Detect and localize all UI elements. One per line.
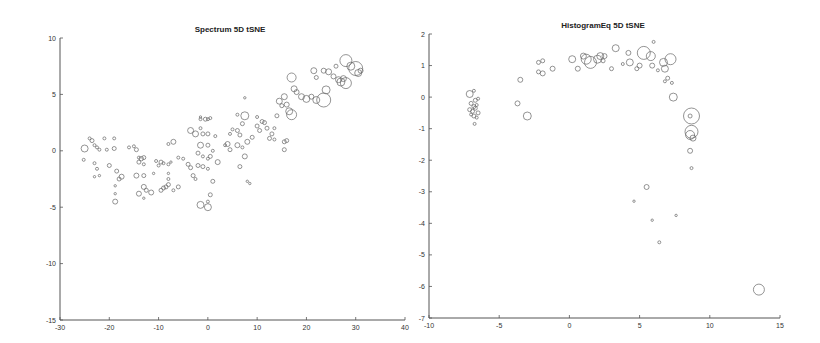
- x-tick-label: -5: [496, 322, 502, 329]
- data-point: [466, 91, 473, 98]
- data-point: [241, 112, 249, 120]
- data-point: [115, 169, 119, 173]
- data-point: [334, 64, 338, 68]
- histogrameq-tsne-plot: HistogramEq 5D tSNE -10-5051015-7-6-5-4-…: [410, 0, 820, 343]
- y-tick-label: -1: [419, 125, 425, 132]
- data-point: [265, 126, 269, 130]
- data-point: [282, 140, 286, 144]
- data-point: [206, 167, 209, 170]
- data-point: [231, 128, 234, 131]
- data-point: [93, 144, 96, 147]
- data-point: [612, 45, 619, 52]
- data-point: [594, 55, 602, 63]
- data-point: [268, 136, 272, 140]
- data-point: [211, 179, 215, 183]
- data-point: [171, 139, 176, 144]
- data-point: [204, 204, 211, 211]
- data-point: [182, 157, 185, 160]
- data-point: [311, 68, 317, 74]
- data-point: [193, 131, 199, 137]
- data-point: [314, 76, 318, 80]
- data-point: [322, 86, 330, 94]
- x-tick-label: -10: [424, 322, 434, 329]
- y-tick-label: -3: [419, 188, 425, 195]
- x-tick-label: 10: [253, 324, 261, 331]
- data-point: [177, 156, 180, 159]
- data-point: [518, 77, 523, 82]
- data-point: [273, 127, 276, 130]
- data-point: [244, 97, 246, 99]
- data-point: [475, 116, 478, 119]
- y-tick-label: 0: [52, 147, 56, 154]
- data-point: [515, 101, 520, 106]
- x-tick-label: 40: [401, 324, 409, 331]
- x-tick-label: 10: [706, 322, 714, 329]
- data-point: [666, 76, 670, 80]
- y-tick-label: -15: [46, 317, 56, 324]
- data-point: [276, 98, 282, 104]
- data-point: [142, 163, 145, 166]
- x-tick-label: -30: [55, 324, 65, 331]
- data-point: [103, 137, 106, 140]
- data-point: [196, 151, 200, 155]
- data-point: [684, 108, 700, 124]
- data-point: [246, 180, 248, 182]
- data-point: [197, 201, 204, 208]
- data-point: [541, 59, 545, 63]
- data-point: [273, 138, 276, 141]
- data-point: [90, 139, 94, 143]
- data-point: [326, 69, 332, 75]
- y-tick-label: -4: [419, 220, 425, 227]
- data-point: [637, 46, 650, 59]
- x-tick-label: 30: [352, 324, 360, 331]
- data-point: [235, 129, 239, 133]
- data-point: [142, 174, 146, 178]
- data-point: [198, 142, 204, 148]
- data-point: [208, 154, 212, 158]
- data-point: [98, 148, 101, 151]
- data-point: [235, 143, 240, 148]
- x-tick-label: -10: [154, 324, 164, 331]
- y-tick-label: 5: [52, 91, 56, 98]
- data-point: [214, 135, 217, 138]
- data-point: [340, 78, 351, 89]
- data-point: [550, 66, 555, 71]
- data-point: [119, 174, 124, 179]
- data-point: [263, 121, 267, 125]
- data-point: [240, 122, 244, 126]
- y-tick-label: 1: [421, 62, 425, 69]
- data-point: [170, 161, 172, 163]
- data-point: [285, 139, 289, 143]
- data-point: [162, 186, 166, 190]
- data-point: [144, 188, 148, 192]
- data-point: [477, 97, 480, 100]
- data-point: [98, 174, 100, 176]
- scatter-plot-area: -30-20-10010203040-15-10-50510: [0, 0, 410, 343]
- data-point: [149, 190, 154, 195]
- data-point: [143, 197, 145, 199]
- data-point: [167, 172, 169, 174]
- data-point: [669, 93, 677, 101]
- data-point: [167, 178, 170, 181]
- data-point: [113, 199, 118, 204]
- data-point: [626, 59, 633, 66]
- data-point: [229, 132, 232, 135]
- data-point: [287, 73, 296, 82]
- data-point: [637, 63, 642, 68]
- data-point: [255, 124, 259, 128]
- data-point: [176, 185, 180, 189]
- data-point: [473, 122, 476, 125]
- y-tick-label: 0: [421, 94, 425, 101]
- data-point: [250, 135, 254, 139]
- data-point: [601, 59, 605, 63]
- data-point: [238, 133, 242, 137]
- data-point: [93, 162, 96, 165]
- data-point: [656, 69, 659, 72]
- x-tick-label: 0: [206, 324, 210, 331]
- data-point: [167, 143, 170, 146]
- y-tick-label: -2: [419, 157, 425, 164]
- data-point: [270, 132, 274, 136]
- data-point: [134, 148, 138, 152]
- data-point: [132, 145, 135, 148]
- data-point: [191, 174, 195, 178]
